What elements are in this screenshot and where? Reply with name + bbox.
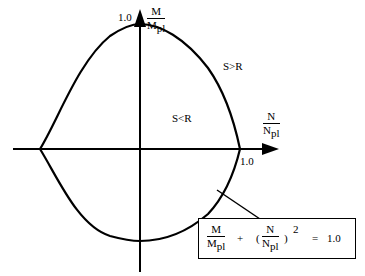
formula-leader-line <box>217 190 260 219</box>
y-axis-tick-label: 1.0 <box>118 12 132 23</box>
formula-rhs: 1.0 <box>327 232 341 244</box>
formula-plus: + <box>237 232 243 244</box>
formula-box: M Mpl + ( N Npl ) 2 = 1.0 <box>198 218 356 259</box>
y-axis-label: M Mpl <box>147 6 165 34</box>
formula-close-paren: ) <box>284 232 288 244</box>
region-label-inside: S<R <box>172 113 192 124</box>
formula-exponent: 2 <box>293 223 299 235</box>
formula-term2: N Npl <box>262 224 279 252</box>
x-axis-arrow-icon <box>262 143 279 155</box>
formula-term1: M Mpl <box>207 224 225 252</box>
formula-open-paren: ( <box>256 232 260 244</box>
formula-equals: = <box>312 232 318 244</box>
region-label-outside: S>R <box>223 61 243 72</box>
x-axis-label: N Npl <box>263 111 280 139</box>
x-axis-tick-label: 1.0 <box>240 156 254 167</box>
